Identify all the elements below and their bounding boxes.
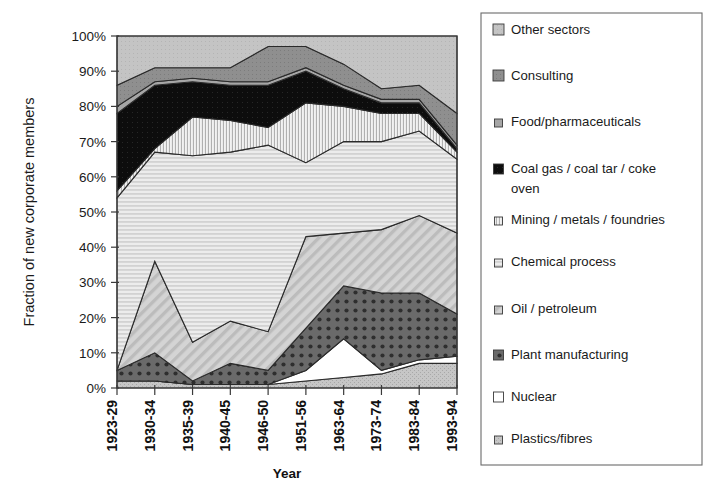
- x-tick-label: 1993-94: [444, 400, 460, 452]
- legend-item[interactable]: Coal gas / coal tar / coke: [494, 161, 657, 176]
- y-tick-label: 100%: [71, 29, 106, 44]
- plot-area: [117, 36, 457, 388]
- legend-swatch-icon: [495, 259, 503, 267]
- y-tick-label: 80%: [79, 99, 106, 114]
- legend-label: Chemical process: [511, 254, 616, 269]
- legend-swatch-icon: [495, 119, 503, 127]
- legend-label: oven: [511, 181, 540, 196]
- legend-item[interactable]: Chemical process: [495, 254, 617, 269]
- legend-swatch-icon: [495, 436, 503, 444]
- y-tick-label: 90%: [79, 64, 106, 79]
- legend-swatch-icon: [494, 350, 504, 360]
- legend-swatch-icon: [493, 70, 504, 81]
- x-axis: 1923-291930-341935-391940-451946-501951-…: [104, 385, 460, 451]
- y-tick-label: 50%: [79, 205, 106, 220]
- x-tick-label: 1973-74: [368, 400, 384, 452]
- legend-label: Plastics/fibres: [511, 431, 593, 446]
- stacked-area-chart: 0%10%20%30%40%50%60%70%80%90%100% 1923-2…: [0, 0, 715, 501]
- legend-label: Consulting: [511, 68, 573, 83]
- y-tick-label: 20%: [79, 311, 106, 326]
- legend-swatch-icon: [493, 24, 504, 35]
- x-tick-label: 1930-34: [142, 400, 158, 452]
- y-tick-label: 40%: [79, 240, 106, 255]
- y-axis-title: Fraction of new corporate members: [21, 98, 37, 327]
- y-tick-label: 70%: [79, 135, 106, 150]
- x-tick-label: 1940-45: [217, 400, 233, 452]
- legend-label: Mining / metals / foundries: [511, 212, 665, 227]
- legend-item[interactable]: Food/pharmaceuticals: [495, 114, 642, 129]
- legend-label: Coal gas / coal tar / coke: [511, 161, 656, 176]
- x-tick-label: 1935-39: [180, 400, 196, 452]
- y-tick-label: 30%: [79, 275, 106, 290]
- chart-figure: 0%10%20%30%40%50%60%70%80%90%100% 1923-2…: [0, 0, 715, 501]
- chart-legend: Other sectorsConsultingFood/pharmaceutic…: [481, 13, 702, 465]
- legend-swatch-icon: [495, 217, 503, 225]
- legend-label: Plant manufacturing: [511, 347, 628, 362]
- legend-item[interactable]: oven: [511, 181, 540, 196]
- legend-swatch-icon: [494, 392, 504, 402]
- x-axis-title: Year: [273, 466, 302, 481]
- legend-label: Food/pharmaceuticals: [511, 114, 641, 129]
- y-tick-label: 10%: [79, 346, 106, 361]
- y-axis: 0%10%20%30%40%50%60%70%80%90%100%: [71, 29, 119, 396]
- legend-label: Nuclear: [511, 389, 557, 404]
- legend-label: Oil / petroleum: [511, 301, 597, 316]
- y-tick-label: 0%: [86, 381, 106, 396]
- x-tick-label: 1963-64: [331, 400, 347, 452]
- y-tick-label: 60%: [79, 170, 106, 185]
- stacked-bands: [117, 36, 457, 388]
- legend-label: Other sectors: [511, 22, 591, 37]
- legend-swatch-icon: [495, 306, 503, 314]
- x-tick-label: 1951-56: [293, 400, 309, 452]
- legend-swatch-icon: [494, 164, 504, 174]
- x-tick-label: 1923-29: [104, 400, 120, 452]
- legend-item[interactable]: Mining / metals / foundries: [495, 212, 666, 227]
- legend-item[interactable]: Plant manufacturing: [494, 347, 629, 362]
- x-tick-label: 1946-50: [255, 400, 271, 452]
- x-tick-label: 1983-84: [406, 400, 422, 452]
